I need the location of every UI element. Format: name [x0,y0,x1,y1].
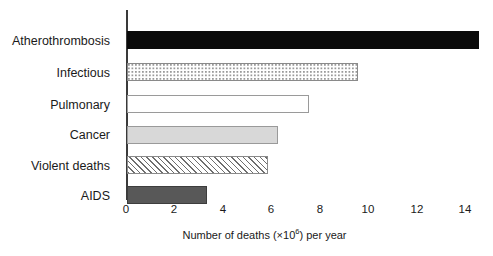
x-tick-12: 12 [411,203,424,216]
category-label-atherothrombosis: Atherothrombosis [12,34,110,48]
category-label-infectious: Infectious [56,66,110,80]
x-axis: 0 2 4 6 8 10 12 14 [126,200,481,202]
bar-violent-deaths [127,156,268,174]
category-label-cancer: Cancer [70,128,110,142]
x-tick-14: 14 [459,203,472,216]
x-tick-10: 10 [362,203,375,216]
x-tick-8: 8 [317,203,323,216]
category-label-aids: AIDS [81,189,110,203]
category-label-violent-deaths: Violent deaths [31,159,110,173]
bar-atherothrombosis [127,31,479,49]
x-axis-title-suffix: ) per year [299,229,346,241]
x-tick-4: 4 [220,203,226,216]
plot-area [126,10,481,200]
x-tick-2: 2 [171,203,177,216]
x-axis-title: Number of deaths (×106) per year [0,229,493,242]
category-axis-labels: Atherothrombosis Infectious Pulmonary Ca… [0,0,118,200]
x-tick-0: 0 [123,203,129,216]
bar-pulmonary [127,95,309,113]
x-tick-6: 6 [268,203,274,216]
bar-infectious [127,63,358,81]
category-label-pulmonary: Pulmonary [50,98,110,112]
x-axis-title-prefix: Number of deaths (×10 [182,229,295,241]
bar-chart: Atherothrombosis Infectious Pulmonary Ca… [0,0,493,256]
bar-cancer [127,126,278,144]
